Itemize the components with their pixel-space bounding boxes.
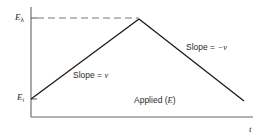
- rising-slope-label: Slope = v: [73, 71, 108, 80]
- e-i-label: Ei: [17, 93, 24, 103]
- e-lambda-sub: λ: [21, 16, 25, 23]
- falling-slope-symbol: −v: [217, 42, 227, 52]
- rising-ramp-line: [31, 19, 139, 99]
- falling-slope-prefix: Slope =: [186, 42, 217, 52]
- falling-slope-label: Slope = −v: [186, 43, 227, 52]
- applied-suffix: ): [173, 95, 176, 105]
- applied-e-label: Applied (E): [134, 96, 176, 105]
- falling-ramp-line: [139, 19, 244, 101]
- e-i-sub: i: [23, 97, 25, 103]
- potential-sweep-diagram: Eλ Ei Slope = v Slope = −v Applied (E) t: [0, 0, 266, 137]
- rising-slope-symbol: v: [104, 70, 108, 80]
- e-lambda-label: Eλ: [15, 13, 24, 23]
- rising-slope-prefix: Slope =: [73, 70, 104, 80]
- diagram-canvas: [0, 0, 266, 137]
- applied-prefix: Applied (: [134, 95, 168, 105]
- t-axis-label: t: [249, 125, 252, 134]
